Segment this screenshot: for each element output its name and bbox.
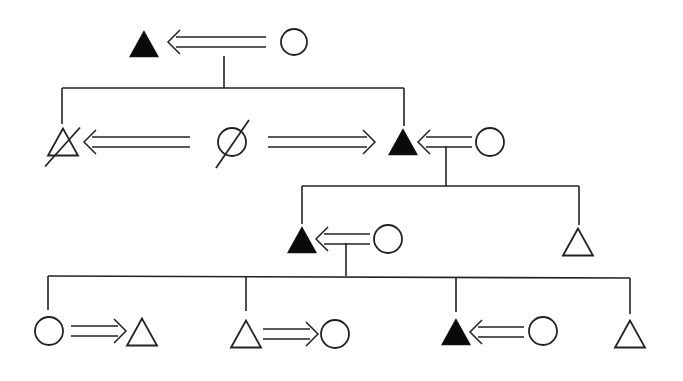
open-circle-female-icon [529,317,557,345]
kinship-diagram [0,0,683,381]
open-triangle-male-icon [127,319,157,346]
open-triangle-male-icon [231,321,261,348]
open-circle-female-icon [321,320,349,348]
double-arrow-left-icon [470,320,524,344]
descent-lines [48,56,630,314]
open-triangle-male-icon [563,229,593,256]
open-circle-female-icon [35,317,63,345]
descent-line-g3-sibline [48,276,630,278]
double-arrow-left-icon [418,130,472,154]
filled-triangle-male-icon [288,227,316,252]
double-arrow-right-icon [71,319,126,343]
filled-triangle-male-icon [442,319,470,344]
filled-triangle-male-icon [130,31,158,56]
double-arrow-right-icon [263,322,318,346]
open-triangle-male-icon [615,321,645,348]
deceased-open-triangle-male-icon [45,128,80,167]
filled-triangle-male-icon [389,129,417,154]
double-arrow-left-icon [168,30,266,54]
deceased-open-circle-female-icon [216,120,249,168]
double-arrow-right-icon [268,130,375,154]
open-circle-female-icon [281,29,307,55]
open-circle-female-icon [476,128,504,156]
kin-nodes [35,29,645,348]
double-arrow-left-icon [84,130,190,154]
open-circle-female-icon [374,225,402,253]
double-arrow-left-icon [316,227,370,251]
pedigree-chart [0,0,683,381]
